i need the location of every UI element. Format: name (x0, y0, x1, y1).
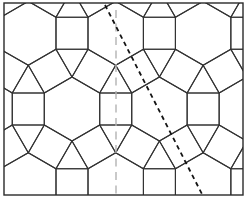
triangle-tile (231, 49, 250, 77)
hexagon-tile (132, 77, 187, 141)
hexagon-tile (175, 153, 230, 204)
tessellation-figure (0, 0, 250, 204)
square-tile (116, 125, 160, 169)
hexagon-tile (0, 77, 12, 141)
triangle-tile (143, 201, 175, 204)
square-tile (203, 49, 247, 93)
figure-border (4, 3, 243, 195)
square-tile (143, 169, 175, 201)
triangle-tile (56, 201, 88, 204)
square-tile (231, 169, 250, 201)
triangle-tile (187, 125, 219, 153)
square-tile (28, 201, 72, 204)
triangle-tile (231, 201, 250, 204)
tessellation-svg (0, 0, 250, 204)
square-tile (72, 201, 116, 204)
triangle-tile (231, 141, 250, 169)
triangle-tile (0, 141, 1, 169)
square-tile (143, 17, 175, 49)
triangle-tile (0, 201, 1, 204)
square-tile (28, 125, 72, 169)
hexagon-tile (219, 77, 250, 141)
square-tile (203, 201, 247, 204)
triangle-tile (187, 65, 219, 93)
triangle-tile (12, 0, 44, 1)
hexagon-tile (1, 1, 56, 65)
square-tile (247, 49, 250, 93)
triangle-tile (0, 49, 1, 77)
triangle-tile (100, 0, 132, 1)
square-tile (187, 93, 219, 125)
square-tile (159, 201, 203, 204)
tiling-layer (0, 0, 250, 204)
square-tile (159, 49, 203, 93)
square-tile (0, 169, 1, 201)
square-tile (247, 0, 250, 17)
square-tile (203, 125, 247, 169)
triangle-tile (12, 65, 44, 93)
triangle-tile (56, 49, 88, 77)
square-tile (72, 49, 116, 93)
triangle-tile (12, 125, 44, 153)
triangle-tile (187, 0, 219, 1)
square-tile (247, 201, 250, 204)
square-tile (231, 17, 250, 49)
triangle-tile (143, 49, 175, 77)
square-tile (116, 49, 160, 93)
square-tile (56, 169, 88, 201)
triangle-tile (0, 0, 1, 17)
square-tile (247, 125, 250, 169)
hexagon-tile (1, 153, 56, 204)
square-tile (116, 201, 160, 204)
square-tile (0, 17, 1, 49)
hexagon-tile (175, 1, 230, 65)
square-tile (28, 49, 72, 93)
square-tile (0, 201, 28, 204)
square-tile (12, 93, 44, 125)
square-tile (72, 125, 116, 169)
triangle-tile (143, 141, 175, 169)
square-tile (159, 125, 203, 169)
square-tile (56, 17, 88, 49)
triangle-tile (56, 141, 88, 169)
hexagon-tile (44, 77, 99, 141)
